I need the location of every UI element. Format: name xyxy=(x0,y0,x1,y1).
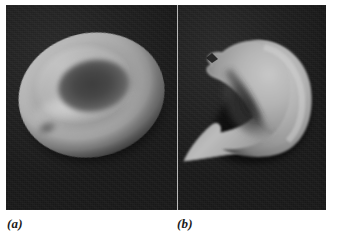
panel-divider xyxy=(177,5,178,210)
panel-b-sickle-cell xyxy=(178,5,326,210)
panel-a-discocyte xyxy=(6,5,177,210)
micrograph-plate xyxy=(6,5,326,210)
panel-a-caption: (a) xyxy=(7,216,23,232)
sickle-cell-icon xyxy=(182,21,326,181)
figure-container: (a) (b) xyxy=(0,0,337,236)
sickle-cell-illustration xyxy=(182,21,326,181)
panel-b-caption: (b) xyxy=(177,216,193,232)
discocyte-cell-icon xyxy=(14,29,169,161)
